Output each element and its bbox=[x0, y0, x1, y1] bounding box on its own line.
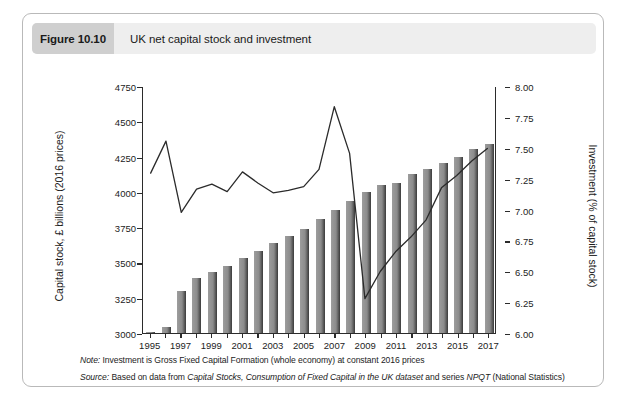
x-tick-mark bbox=[473, 334, 474, 338]
figure-frame: Figure 10.10 UK net capital stock and in… bbox=[22, 13, 604, 387]
source-italic-dataset: Capital Stocks, Consumption of Fixed Cap… bbox=[187, 372, 423, 382]
x-tick-label: 1997 bbox=[170, 340, 191, 351]
plot-region bbox=[142, 87, 496, 334]
y-tick-label-left: 3000 bbox=[115, 329, 136, 340]
x-tick-mark bbox=[411, 334, 412, 338]
y-axis-title-right: Investment (% of capital stock) bbox=[587, 116, 599, 316]
figure-number-badge: Figure 10.10 bbox=[32, 23, 114, 54]
x-tick-mark bbox=[273, 334, 274, 338]
x-tick-mark bbox=[150, 334, 151, 338]
y-tick-label-left: 3250 bbox=[115, 293, 136, 304]
y-tick-label-right: 7.00 bbox=[515, 205, 534, 216]
y-tick-label-right: 6.25 bbox=[515, 298, 534, 309]
figure-notes: Note: Investment is Gross Fixed Capital … bbox=[80, 355, 600, 389]
source-mid: and series bbox=[423, 372, 466, 382]
x-tick-mark bbox=[319, 334, 320, 338]
y-tick-mark-right bbox=[505, 334, 510, 335]
x-tick-label: 2015 bbox=[447, 340, 468, 351]
x-tick-mark bbox=[396, 334, 397, 338]
source-line: Source: Based on data from Capital Stock… bbox=[80, 372, 600, 382]
chart-area: Capital stock, £ billions (2016 prices) … bbox=[23, 62, 605, 352]
figure-header: Figure 10.10 UK net capital stock and in… bbox=[32, 23, 596, 54]
y-tick-mark-right bbox=[505, 303, 510, 304]
source-italic-series: NPQT bbox=[467, 372, 491, 382]
source-prefix: Based on data from bbox=[111, 372, 187, 382]
y-tick-label-right: 6.00 bbox=[515, 329, 534, 340]
y-tick-label-right: 7.25 bbox=[515, 174, 534, 185]
y-tick-mark-right bbox=[505, 241, 510, 242]
x-tick-mark bbox=[442, 334, 443, 338]
x-tick-mark bbox=[257, 334, 258, 338]
x-tick-mark bbox=[304, 334, 305, 338]
y-tick-label-right: 6.50 bbox=[515, 267, 534, 278]
y-tick-mark-right bbox=[505, 149, 510, 150]
line-series-investment bbox=[143, 87, 495, 333]
y-tick-mark-right bbox=[505, 87, 510, 88]
y-tick-label-left: 3500 bbox=[115, 258, 136, 269]
x-tick-label: 2007 bbox=[324, 340, 345, 351]
note-line: Note: Investment is Gross Fixed Capital … bbox=[80, 355, 600, 365]
x-tick-label: 2011 bbox=[386, 340, 406, 351]
x-tick-mark bbox=[165, 334, 166, 338]
note-text: Investment is Gross Fixed Capital Format… bbox=[102, 355, 424, 365]
x-tick-label: 1995 bbox=[139, 340, 160, 351]
x-tick-mark bbox=[381, 334, 382, 338]
y-tick-mark-right bbox=[505, 118, 510, 119]
x-tick-label: 2009 bbox=[355, 340, 376, 351]
x-tick-mark bbox=[458, 334, 459, 338]
x-tick-mark bbox=[196, 334, 197, 338]
x-tick-mark bbox=[334, 334, 335, 338]
y-tick-label-right: 7.75 bbox=[515, 112, 534, 123]
x-tick-label: 2013 bbox=[416, 340, 437, 351]
y-tick-mark-right bbox=[505, 211, 510, 212]
x-tick-mark bbox=[288, 334, 289, 338]
x-tick-label: 2005 bbox=[293, 340, 314, 351]
y-tick-label-left: 3750 bbox=[115, 223, 136, 234]
x-tick-label: 2001 bbox=[231, 340, 252, 351]
x-tick-label: 2017 bbox=[478, 340, 499, 351]
y-tick-label-left: 4500 bbox=[115, 117, 136, 128]
x-tick-label: 2003 bbox=[262, 340, 283, 351]
y-axis-title-left: Capital stock, £ billions (2016 prices) bbox=[53, 116, 65, 316]
y-tick-label-left: 4250 bbox=[115, 152, 136, 163]
note-label: Note: bbox=[80, 355, 100, 365]
y-tick-label-left: 4750 bbox=[115, 82, 136, 93]
x-tick-mark bbox=[365, 334, 366, 338]
x-axis-ticks: 1995199719992001200320052007200920112013… bbox=[142, 334, 496, 356]
y-tick-label-right: 6.75 bbox=[515, 236, 534, 247]
x-tick-mark bbox=[211, 334, 212, 338]
y-tick-label-right: 7.50 bbox=[515, 143, 534, 154]
y-axis-left-ticks: 30003250350037504000425045004750 bbox=[98, 87, 136, 334]
x-tick-mark bbox=[350, 334, 351, 338]
x-tick-mark bbox=[242, 334, 243, 338]
y-tick-label-right: 8.00 bbox=[515, 82, 534, 93]
figure-title: UK net capital stock and investment bbox=[114, 33, 311, 45]
y-axis-right-ticks: 6.006.256.506.757.007.257.507.758.00 bbox=[503, 87, 543, 334]
x-tick-mark bbox=[180, 334, 181, 338]
y-tick-mark-right bbox=[505, 180, 510, 181]
source-label: Source: bbox=[80, 372, 109, 382]
x-tick-mark bbox=[227, 334, 228, 338]
y-tick-mark-right bbox=[505, 272, 510, 273]
y-tick-label-left: 4000 bbox=[115, 187, 136, 198]
x-tick-mark bbox=[427, 334, 428, 338]
x-tick-label: 1999 bbox=[201, 340, 222, 351]
source-suffix: (National Statistics) bbox=[490, 372, 565, 382]
x-tick-mark bbox=[488, 334, 489, 338]
